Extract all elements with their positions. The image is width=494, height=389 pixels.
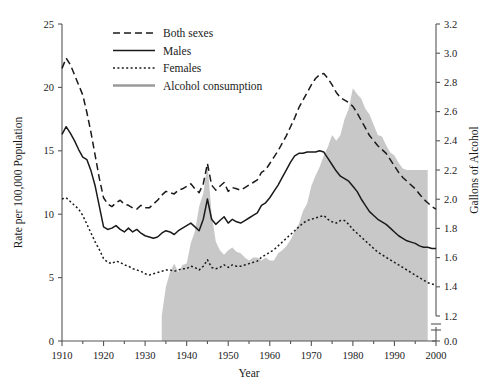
x-tick-label-7: 1980: [342, 350, 363, 361]
chart-container: 05101520251.21.41.61.82.02.22.42.62.83.0…: [0, 0, 494, 389]
legend-label-2: Females: [163, 62, 202, 74]
right-tick-label-10: 3.2: [444, 19, 457, 30]
alcohol-consumption-area: [162, 88, 428, 341]
legend-label-1: Males: [163, 45, 192, 57]
left-tick-label-1: 5: [49, 272, 54, 283]
left-tick-label-4: 20: [44, 82, 55, 93]
legend-label-0: Both sexes: [163, 27, 214, 39]
x-tick-label-3: 1940: [176, 350, 197, 361]
right-tick-label-9: 3.0: [444, 48, 457, 59]
x-tick-label-1: 1920: [93, 350, 114, 361]
x-tick-label-5: 1960: [259, 350, 280, 361]
right-tick-label-0: 1.2: [444, 311, 457, 322]
right-axis-title: Gallons of Alcohol: [468, 126, 480, 214]
left-tick-label-3: 15: [44, 145, 55, 156]
left-tick-label-2: 10: [44, 209, 55, 220]
right-tick-label-4: 2.0: [444, 194, 457, 205]
right-tick-label-3: 1.8: [444, 223, 457, 234]
left-tick-label-0: 0: [49, 336, 54, 347]
right-tick-label-6: 2.4: [444, 135, 458, 146]
right-tick-label-1: 1.4: [444, 281, 458, 292]
bottom-axis-title: Year: [238, 367, 259, 379]
x-tick-label-4: 1950: [218, 350, 239, 361]
legend-label-3: Alcohol consumption: [163, 80, 263, 93]
right-tick-label-7: 2.6: [444, 106, 457, 117]
x-tick-label-9: 2000: [426, 350, 447, 361]
left-tick-label-5: 25: [44, 19, 55, 30]
right-tick-label-2: 1.6: [444, 252, 457, 263]
right-tick-label-5: 2.2: [444, 165, 457, 176]
line-chart-svg: 05101520251.21.41.61.82.02.22.42.62.83.0…: [0, 0, 494, 389]
right-tick-label-8: 2.8: [444, 77, 457, 88]
x-tick-label-2: 1930: [135, 350, 156, 361]
x-tick-label-0: 1910: [52, 350, 73, 361]
right-tick-label-zero: 0.0: [444, 336, 457, 347]
x-tick-label-8: 1990: [384, 350, 405, 361]
x-tick-label-6: 1970: [301, 350, 322, 361]
left-axis-title: Rate per 100,000 Population: [12, 116, 25, 248]
